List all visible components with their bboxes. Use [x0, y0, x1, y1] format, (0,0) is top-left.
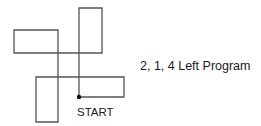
program-path [14, 8, 124, 122]
start-dot [77, 95, 81, 99]
program-caption: 2, 1, 4 Left Program [140, 59, 250, 73]
start-label: START [77, 106, 114, 118]
